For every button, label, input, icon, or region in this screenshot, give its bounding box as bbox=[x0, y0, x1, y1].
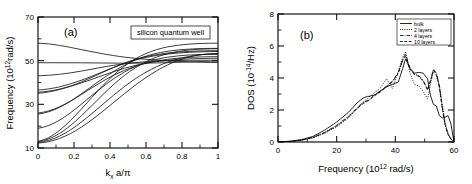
svg-text:DOS (10-14/Hz): DOS (10-14/Hz) bbox=[245, 46, 257, 110]
panel-b-xtick-60: 60 bbox=[450, 146, 459, 155]
panel-a-ytick-50: 50 bbox=[25, 57, 34, 66]
panel-a-yaxis-label: Frequency (1012rad/s) bbox=[4, 37, 16, 130]
band-curve bbox=[38, 43, 218, 63]
panel-b-ytick-8: 8 bbox=[270, 10, 275, 19]
panel-a-annotation: silicon quantum well bbox=[131, 26, 210, 39]
panel-a-ylabel-rest: rad/s) bbox=[4, 37, 15, 61]
panel-a-xtick-0: 0 bbox=[36, 152, 41, 161]
panel-b-density-of-states: 0 2 4 6 8 0 20 40 60 Frequency (1012 rad… bbox=[236, 0, 472, 184]
panel-a-phonon-dispersion: 10 30 50 70 0 0.2 0.4 0.6 0.8 1 kx a/π F… bbox=[0, 0, 236, 184]
panel-b-dos-curves bbox=[278, 52, 454, 142]
panel-b-letter: (b) bbox=[300, 29, 313, 41]
panel-b-ytick-4: 4 bbox=[270, 74, 275, 83]
panel-a-ytick-70: 70 bbox=[25, 13, 34, 22]
panel-a-letter: (a) bbox=[64, 26, 77, 38]
band-curve bbox=[38, 48, 218, 114]
panel-b-xlabel-rest: rad/s) bbox=[387, 163, 414, 174]
panel-b-ylabel-main: DOS (10 bbox=[245, 73, 256, 110]
panel-b-svg: 0 2 4 6 8 0 20 40 60 Frequency (1012 rad… bbox=[236, 0, 472, 184]
panel-a-xlabel-rest: a/π bbox=[113, 167, 131, 178]
panel-b-xlabel-main: Frequency (10 bbox=[318, 163, 379, 174]
panel-a-ylabel-main: Frequency (10 bbox=[4, 68, 15, 129]
panel-a-xtick-08: 0.8 bbox=[176, 152, 188, 161]
panel-a-xaxis-label: kx a/π bbox=[105, 167, 131, 180]
panel-a-band-curves bbox=[38, 43, 218, 143]
legend-label-10-layers: 10 layers bbox=[414, 39, 435, 45]
panel-a-xtick-04: 0.4 bbox=[104, 152, 116, 161]
panel-b-xtick-20: 20 bbox=[332, 146, 341, 155]
panel-a-ytick-10: 10 bbox=[25, 144, 34, 153]
panel-a-svg: 10 30 50 70 0 0.2 0.4 0.6 0.8 1 kx a/π F… bbox=[0, 0, 236, 184]
panel-a-xtick-02: 0.2 bbox=[68, 152, 80, 161]
panel-b-legend: bulk 2 layers 4 layers 10 layers bbox=[397, 19, 451, 45]
panel-b-xtick-40: 40 bbox=[391, 146, 400, 155]
panel-b-xtick-0: 0 bbox=[276, 146, 281, 155]
panel-b-ylabel-sup: -14 bbox=[245, 63, 252, 73]
panel-b-yaxis-label: DOS (10-14/Hz) bbox=[245, 46, 257, 110]
panel-b-ylabel-rest: /Hz) bbox=[245, 46, 256, 63]
svg-text:kx a/π: kx a/π bbox=[105, 167, 131, 180]
panel-b-ytick-6: 6 bbox=[270, 42, 275, 51]
panel-a-annotation-label: silicon quantum well bbox=[137, 28, 204, 37]
panel-b-ytick-0: 0 bbox=[270, 138, 275, 147]
panel-a-ytick-30: 30 bbox=[25, 100, 34, 109]
panel-a-xtick-1: 1 bbox=[216, 152, 221, 161]
panel-b-xaxis-label: Frequency (1012 rad/s) bbox=[318, 163, 413, 175]
panel-a-xtick-06: 0.6 bbox=[140, 152, 152, 161]
svg-text:Frequency (1012rad/s): Frequency (1012rad/s) bbox=[4, 37, 16, 130]
panel-b-ytick-2: 2 bbox=[270, 106, 275, 115]
figure-container: 10 30 50 70 0 0.2 0.4 0.6 0.8 1 kx a/π F… bbox=[0, 0, 472, 184]
